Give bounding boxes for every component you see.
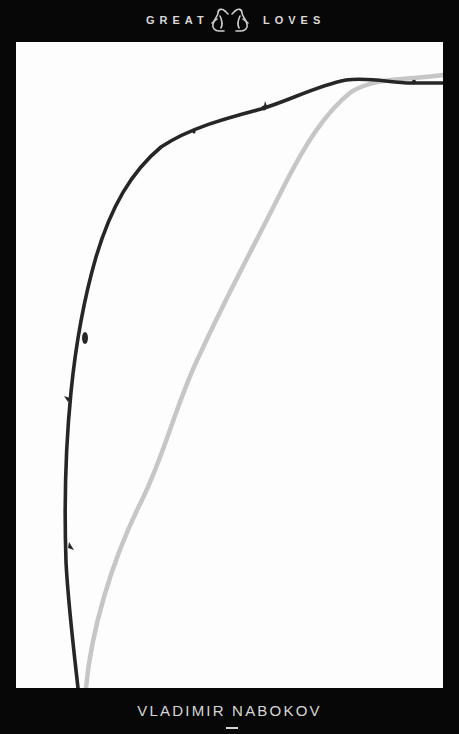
branch-buds — [64, 80, 416, 550]
author-name: VLADIMIR NABOKOV — [0, 702, 459, 719]
series-word-great: GREAT — [146, 14, 209, 26]
dark-branch — [65, 79, 443, 688]
author-footer: VLADIMIR NABOKOV — [0, 688, 459, 734]
book-cover: GREAT LOVES — [0, 0, 459, 734]
author-underline-divider — [226, 727, 238, 729]
penguin-pair-icon — [206, 4, 254, 34]
series-header: GREAT LOVES — [0, 0, 459, 42]
series-word-loves: LOVES — [263, 14, 325, 26]
cover-artwork — [16, 42, 443, 688]
